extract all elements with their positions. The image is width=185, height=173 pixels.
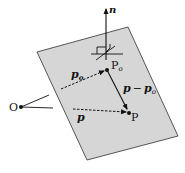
label-vec-p0-letter: p xyxy=(71,68,79,81)
label-vector-diff: p−po xyxy=(123,83,156,96)
label-origin-o: O xyxy=(9,102,18,113)
label-diff-p0-subscript: o xyxy=(152,88,156,96)
label-vector-p: p xyxy=(77,112,85,123)
label-vector-p0: po xyxy=(71,69,83,81)
label-normal-n: n xyxy=(109,5,116,15)
origin-point xyxy=(19,105,23,109)
origin-line-lower xyxy=(21,107,53,108)
diagram-graphics xyxy=(0,0,185,173)
label-vec-p0-subscript: o xyxy=(79,73,84,82)
label-point-p: P xyxy=(131,112,138,123)
plane xyxy=(37,27,178,160)
label-diff-p: p xyxy=(123,82,131,95)
point-p0 xyxy=(105,68,109,72)
label-diff-minus: − xyxy=(133,82,142,95)
plane-vector-diagram: n Po P O po p p−po xyxy=(0,0,185,173)
label-diff-p0: p xyxy=(144,82,152,95)
origin-line-upper xyxy=(21,95,49,107)
label-p0-subscript: o xyxy=(118,65,122,73)
label-point-p0: Po xyxy=(111,60,123,73)
